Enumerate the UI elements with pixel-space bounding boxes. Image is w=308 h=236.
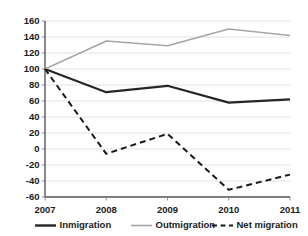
x-tick-label-2007: 2007 <box>34 204 55 215</box>
migration-line-chart: 160140120100806040200-20-40-60 200720082… <box>0 0 308 236</box>
y-tick-label-140: 140 <box>24 31 40 42</box>
y-tick-label--40: -40 <box>26 175 40 186</box>
y-tick-label-60: 60 <box>29 95 40 106</box>
y-tick-label--60: -60 <box>26 191 40 202</box>
y-tick-label-0: 0 <box>34 143 39 154</box>
y-tick-label-100: 100 <box>24 63 40 74</box>
legend-label-outmigration: Outmigration <box>156 219 216 230</box>
chart-background <box>0 0 308 236</box>
y-tick-label-20: 20 <box>29 127 40 138</box>
y-tick-label-120: 120 <box>24 47 40 58</box>
legend-label-inmigration: Inmigration <box>60 219 112 230</box>
y-tick-label-80: 80 <box>29 79 40 90</box>
y-tick-label-160: 160 <box>24 15 40 26</box>
x-tick-label-2009: 2009 <box>157 204 178 215</box>
x-tick-label-2008: 2008 <box>96 204 117 215</box>
chart-legend: InmigrationOutmigrationNet migration <box>35 219 298 230</box>
y-tick-label--20: -20 <box>26 159 40 170</box>
legend-label-net-migration: Net migration <box>237 219 298 230</box>
y-tick-label-40: 40 <box>29 111 40 122</box>
chart-canvas: 160140120100806040200-20-40-60 200720082… <box>0 0 308 236</box>
x-tick-label-2010: 2010 <box>218 204 239 215</box>
x-tick-label-2011: 2011 <box>280 204 301 215</box>
